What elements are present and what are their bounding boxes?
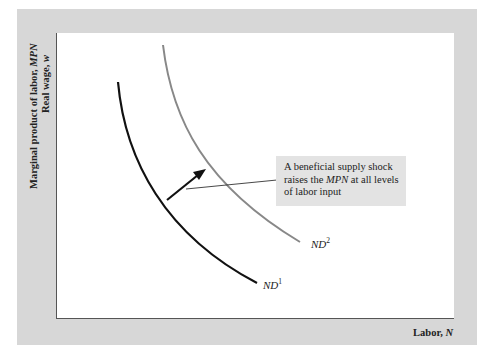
nd2-curve (163, 45, 300, 242)
nd2-label: ND2 (311, 236, 330, 250)
shift-arrow-shaft (167, 175, 198, 200)
curves-layer (0, 0, 489, 356)
nd1-label: ND1 (263, 277, 282, 291)
callout-leader-line (186, 180, 277, 189)
callout-box: A beneficial supply shock raises the MPN… (276, 156, 406, 206)
